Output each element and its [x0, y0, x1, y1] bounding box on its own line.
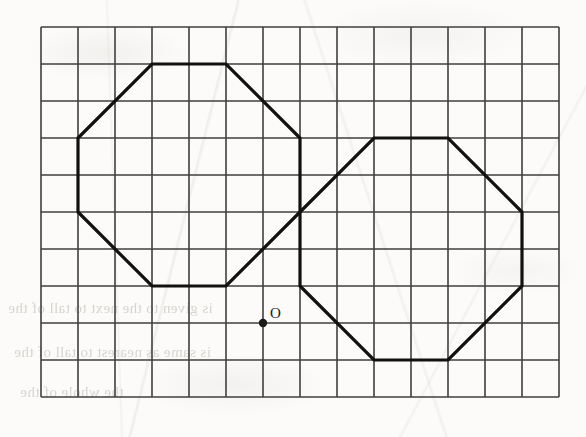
points-group: [259, 319, 267, 327]
figure-root: is given to the next to tall of theis sa…: [0, 0, 586, 437]
point-O-label: O: [270, 306, 281, 321]
geometry-figure: [0, 0, 586, 437]
point-O-dot: [259, 319, 267, 327]
